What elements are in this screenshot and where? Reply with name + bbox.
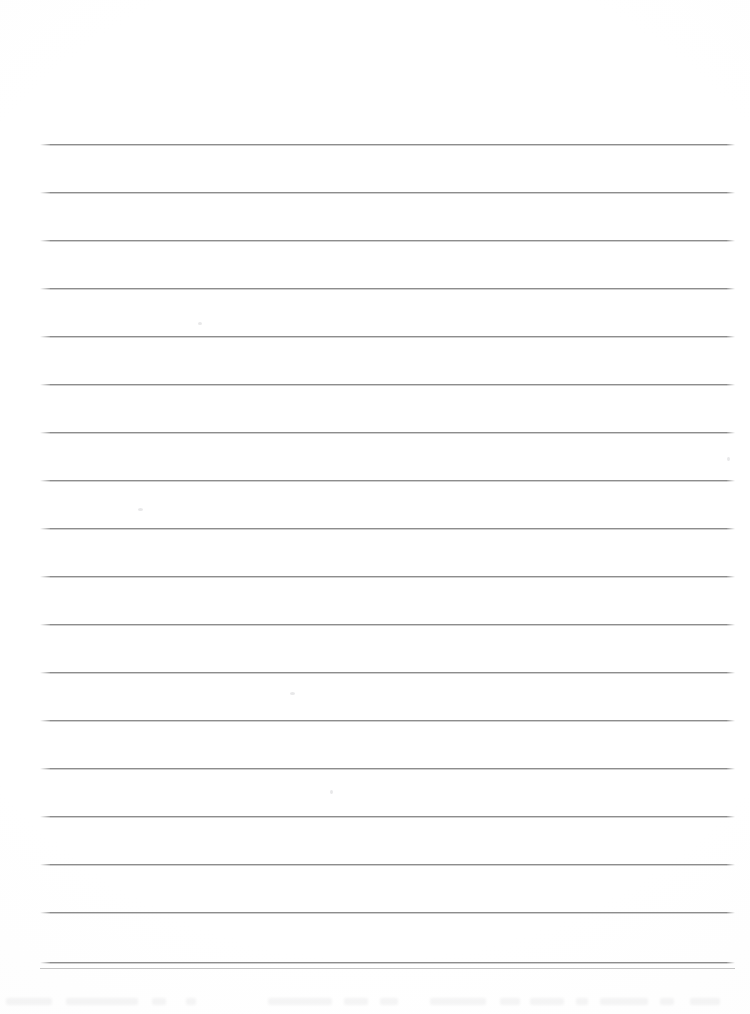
rule-line [40,672,735,673]
scan-speck [290,692,295,695]
rule-line [40,816,735,817]
rule-line [40,432,735,433]
scan-speck [138,508,143,511]
rule-line [40,528,735,529]
page-canvas [0,0,750,1014]
rule-line [40,240,735,241]
rule-line [40,192,735,193]
rule-line [40,962,735,963]
rule-line [40,576,735,577]
rule-line [40,912,735,913]
rule-line [40,768,735,769]
bottom-seam-line [40,968,735,969]
scan-speck [727,457,730,461]
rule-line [40,480,735,481]
scan-speck [330,790,333,794]
scan-speck [198,322,202,325]
rule-line [40,288,735,289]
rule-line [40,336,735,337]
rule-line [40,384,735,385]
rule-line [40,720,735,721]
rule-line [40,624,735,625]
rule-line [40,864,735,865]
rule-line [40,144,735,145]
ruled-writing-area[interactable] [0,0,750,1014]
